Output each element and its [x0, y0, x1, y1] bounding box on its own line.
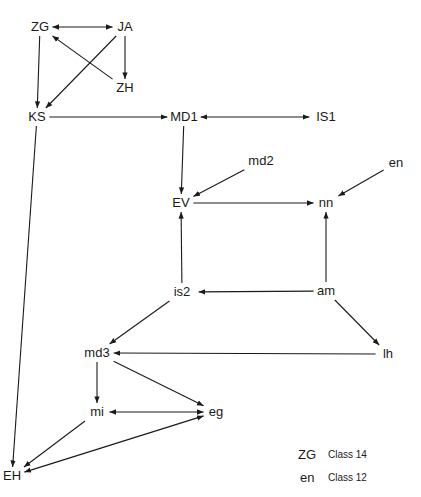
node-zh: ZH — [116, 81, 133, 95]
legend-key-0: ZG — [298, 447, 316, 462]
node-is1: IS1 — [316, 110, 336, 124]
node-mi: mi — [90, 405, 104, 419]
edge-lh-md3 — [114, 353, 376, 354]
edge-md1-ev — [181, 126, 183, 194]
edges-layer — [0, 0, 421, 497]
edge-zh-zg — [52, 36, 112, 79]
node-nn: nn — [319, 196, 333, 210]
node-eh: EH — [3, 469, 21, 483]
edge-am-lh — [335, 300, 379, 345]
edge-md2-ev — [193, 170, 244, 197]
node-md2: md2 — [248, 154, 273, 168]
legend-key-1: en — [300, 470, 314, 485]
node-ja: JA — [117, 20, 132, 34]
node-md1: MD1 — [170, 110, 197, 124]
node-lh: lh — [383, 347, 393, 361]
node-zg: ZG — [31, 20, 49, 34]
edge-is2-ev — [181, 212, 182, 283]
edge-zg-ks — [37, 36, 39, 108]
edge-en-nn — [338, 170, 383, 196]
edge-ja-ks — [46, 36, 116, 108]
node-ev: EV — [172, 196, 189, 210]
edge-is2-md3 — [110, 301, 170, 344]
edge-am-is2 — [199, 291, 314, 292]
node-eg: eg — [209, 405, 223, 419]
edge-mi-eh — [24, 421, 85, 467]
legend-text-1: Class 12 — [328, 472, 367, 483]
network-diagram: ZGJAZHKSMD1IS1md2enEVnnis2ammd3lhmiegEH … — [0, 0, 421, 497]
edge-eg-eh — [24, 416, 203, 472]
node-am: am — [317, 284, 335, 298]
edge-ks-eh — [13, 126, 37, 467]
node-is2: is2 — [174, 285, 191, 299]
legend-text-0: Class 14 — [328, 449, 367, 460]
edge-md3-eg — [114, 361, 204, 406]
node-en: en — [389, 156, 403, 170]
node-md3: md3 — [84, 346, 109, 360]
node-ks: KS — [28, 110, 45, 124]
